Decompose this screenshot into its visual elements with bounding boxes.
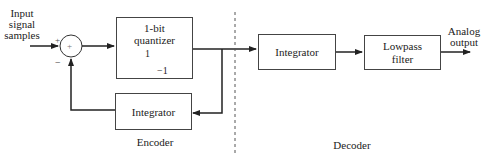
quantizer-level-high: 1 <box>145 48 150 59</box>
decoder-integrator-label: Integrator <box>259 46 335 58</box>
output-label-line2: output <box>443 37 485 48</box>
quantizer-level-low: −1 <box>157 65 168 76</box>
quantizer-block: 1-bit quantizer <box>116 17 193 79</box>
output-label: Analog output <box>443 26 485 48</box>
lowpass-filter-line2: filter <box>365 53 440 65</box>
lowpass-filter-line1: Lowpass <box>365 40 440 52</box>
feedback-branch-arrow <box>193 49 222 113</box>
feedback-to-summer-arrow <box>71 59 115 110</box>
input-label: Input signal samples <box>2 8 42 41</box>
diagram-lines <box>0 0 486 158</box>
feedback-integrator-block: Integrator <box>115 93 192 130</box>
input-label-line3: samples <box>2 30 42 41</box>
decoder-label: Decoder <box>327 140 377 151</box>
summer-plus-sign: + <box>55 35 60 46</box>
decoder-integrator-block: Integrator <box>258 34 336 70</box>
quantizer-title-line2: quantizer <box>117 34 192 46</box>
encoder-label: Encoder <box>130 137 180 148</box>
summer-symbol: + <box>67 41 72 52</box>
quantizer-title-line1: 1-bit <box>117 22 192 34</box>
summer-minus-sign: − <box>55 57 61 68</box>
lowpass-filter-block: Lowpass filter <box>364 35 441 70</box>
feedback-integrator-label: Integrator <box>116 106 191 118</box>
